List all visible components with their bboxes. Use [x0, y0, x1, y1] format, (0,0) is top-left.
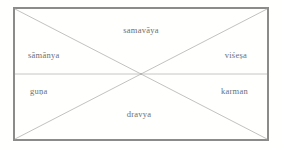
- center-intersection-point: [140, 73, 142, 75]
- label-guna: guṇa: [30, 87, 48, 96]
- label-samanya: sāmānya: [28, 51, 60, 60]
- label-karman: karman: [221, 87, 248, 96]
- diagram-figure: [0, 0, 281, 149]
- label-samavaya: samavāya: [123, 26, 159, 35]
- label-dravya: dravya: [127, 110, 152, 119]
- label-visesa: viśeṣa: [225, 51, 247, 60]
- diagram-canvas: samavāya sāmānya viśeṣa guṇa karman drav…: [0, 0, 281, 149]
